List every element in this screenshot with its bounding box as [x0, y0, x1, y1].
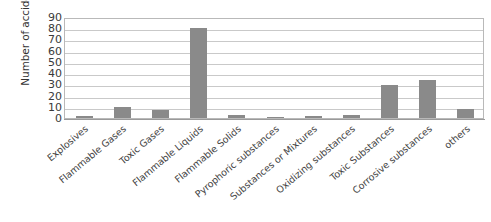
- bar: [343, 115, 360, 118]
- x-axis-tick-labels: ExplosivesFlammable GasesToxic GasesFlam…: [0, 119, 491, 222]
- x-axis-tick-label-text: Flammable Gases: [57, 123, 128, 185]
- bar: [228, 115, 245, 118]
- bar: [305, 116, 322, 118]
- bars-layer: [65, 19, 483, 118]
- plot-area: [64, 18, 484, 119]
- bar: [267, 117, 284, 118]
- bar: [190, 28, 207, 118]
- bar: [381, 85, 398, 118]
- x-axis-tick-label-text: Flammable Liquids: [130, 123, 205, 188]
- bar: [457, 109, 474, 118]
- y-axis-title: Number of accidents: [19, 0, 35, 87]
- x-axis-tick-label-text: Flammable Solids: [172, 123, 243, 185]
- bar-chart: Number of accidents 9080706050403020100 …: [0, 0, 491, 222]
- bar: [419, 80, 436, 118]
- bar: [114, 107, 131, 118]
- y-axis-tick-labels: 9080706050403020100: [38, 12, 62, 120]
- bar: [76, 116, 93, 118]
- bar: [152, 110, 169, 118]
- x-axis-tick-label-text: others: [442, 123, 472, 151]
